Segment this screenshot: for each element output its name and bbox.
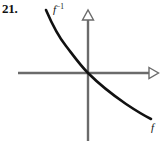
graph-canvas: f−1 f [0,0,164,141]
function-curve [46,10,151,119]
inverse-function-exponent: −1 [56,2,64,11]
x-axis-arrowhead-icon [149,68,159,79]
function-label: f [151,121,156,133]
inverse-function-label: f−1 [53,2,64,15]
figure-container: 21. f−1 f [0,0,164,141]
y-axis-arrowhead-icon [83,10,94,20]
